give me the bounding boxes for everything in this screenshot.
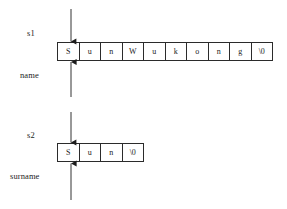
char-array-surname: S u n \0 [57, 143, 144, 162]
pointer-label-s1: s1 [27, 28, 35, 38]
char-cell: n [101, 144, 123, 161]
char-cell: \0 [123, 144, 144, 161]
char-cell: W [123, 43, 145, 60]
char-cell: S [58, 144, 80, 161]
char-array-name: S u n W u k o n g \0 [57, 42, 273, 61]
arrow-layer [0, 0, 287, 209]
char-cell: u [80, 144, 102, 161]
char-cell: n [101, 43, 123, 60]
array-label-name: name [20, 70, 39, 80]
char-cell: k [166, 43, 188, 60]
string-memory-diagram: s1 name S u n W u k o n g \0 s2 surname … [0, 0, 287, 209]
char-cell: S [58, 43, 80, 60]
char-cell: u [144, 43, 166, 60]
char-cell: \0 [252, 43, 273, 60]
pointer-label-s2: s2 [27, 130, 35, 140]
char-cell: o [187, 43, 209, 60]
char-cell: g [230, 43, 252, 60]
char-cell: n [209, 43, 231, 60]
array-label-surname: surname [10, 171, 40, 181]
char-cell: u [80, 43, 102, 60]
